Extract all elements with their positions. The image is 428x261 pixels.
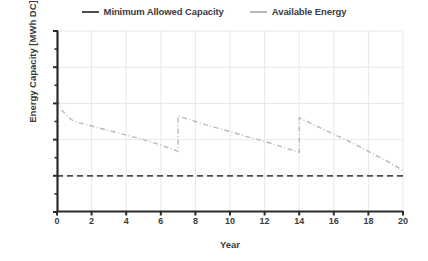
x-tick-20: 20 (391, 216, 415, 226)
x-tick-14: 14 (287, 216, 311, 226)
x-tick-12: 12 (253, 216, 277, 226)
x-tick-0: 0 (45, 216, 69, 226)
grid-lines (57, 31, 403, 212)
x-tick-2: 2 (80, 216, 104, 226)
chart-figure: Minimum Allowed Capacity Available Energ… (0, 0, 428, 261)
x-tick-10: 10 (218, 216, 242, 226)
x-tick-16: 16 (322, 216, 346, 226)
x-tick-6: 6 (149, 216, 173, 226)
x-tick-4: 4 (114, 216, 138, 226)
x-tick-18: 18 (356, 216, 380, 226)
x-tick-8: 8 (183, 216, 207, 226)
plot-area (57, 31, 403, 212)
chart-canvas (57, 31, 403, 212)
